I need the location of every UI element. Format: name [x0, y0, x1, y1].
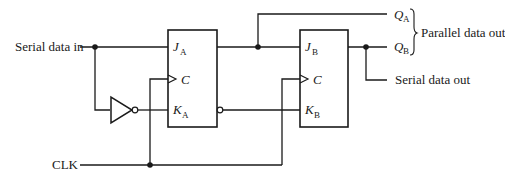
inverter-bubble-icon	[132, 107, 138, 113]
ca-label: C	[181, 72, 190, 87]
serial-data-in-label: Serial data in	[15, 39, 84, 54]
qb-sub: B	[403, 46, 409, 56]
flipflop-a: J A C K A	[168, 30, 223, 127]
kb-sub: B	[314, 110, 320, 120]
qa-sub: A	[403, 14, 410, 24]
jb-sub: B	[312, 47, 318, 57]
inverter-gate-icon	[111, 97, 132, 123]
ja-sub: A	[180, 47, 187, 57]
clk-b-wire	[282, 79, 300, 165]
ka-sub: A	[182, 110, 189, 120]
inverter-input-wire	[95, 47, 110, 110]
clk-label: CLK	[52, 157, 79, 172]
qa-bar-bubble-icon	[217, 107, 223, 113]
serial-out-wire	[366, 47, 387, 80]
shift-register-diagram: Serial data in CLK J A C K A J B C K B	[0, 0, 505, 181]
brace-icon	[410, 9, 417, 55]
cb-label: C	[313, 72, 322, 87]
parallel-data-out-label: Parallel data out	[421, 25, 505, 40]
serial-data-out-label: Serial data out	[395, 72, 470, 87]
flipflop-b: J B C K B	[300, 30, 348, 127]
clk-a-wire	[150, 79, 168, 165]
